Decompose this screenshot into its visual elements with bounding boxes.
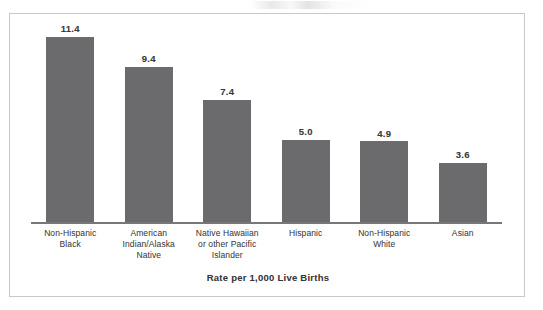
bar-item: 4.9 (345, 24, 424, 222)
x-axis-line (31, 222, 502, 224)
bar-item: 3.6 (424, 24, 503, 222)
category-label-text: Non-HispanicBlack (44, 228, 96, 261)
bar-item: 9.4 (110, 24, 189, 222)
bar-rect (46, 37, 94, 223)
scanned-page: 11.49.47.45.04.93.6 Non-HispanicBlackAme… (0, 0, 543, 310)
bar-rect (203, 100, 251, 222)
x-axis-tick-label: Asian (424, 228, 503, 261)
bar-item: 7.4 (188, 24, 267, 222)
x-axis-title: Rate per 1,000 Live Births (10, 272, 526, 283)
bar-rect (360, 141, 408, 222)
x-axis-tick-label: AmericanIndian/AlaskaNative (110, 228, 189, 261)
x-axis-tick-label: Native Hawaiianor other PacificIslander (188, 228, 267, 261)
x-axis-tick-label: Non-HispanicWhite (345, 228, 424, 261)
bar-series: 11.49.47.45.04.93.6 (31, 24, 502, 222)
x-axis-tick-label: Non-HispanicBlack (31, 228, 110, 261)
bar-item: 11.4 (31, 24, 110, 222)
x-axis-tick-label: Hispanic (267, 228, 346, 261)
bar-value-label: 9.4 (142, 54, 156, 64)
plot-area: 11.49.47.45.04.93.6 Non-HispanicBlackAme… (10, 14, 526, 298)
bar-rect (282, 140, 330, 223)
category-label-text: Hispanic (289, 228, 322, 261)
category-label-text: Asian (452, 228, 474, 261)
bar-rect (439, 163, 487, 222)
bar-value-label: 7.4 (220, 87, 234, 97)
category-label-text: Native Hawaiianor other PacificIslander (196, 228, 259, 261)
bar-rect (125, 67, 173, 222)
bar-value-label: 3.6 (456, 150, 470, 160)
bar-value-label: 11.4 (61, 24, 80, 34)
x-axis-category-labels: Non-HispanicBlackAmericanIndian/AlaskaNa… (31, 228, 502, 261)
scan-artifact (250, 1, 370, 9)
chart-frame: 11.49.47.45.04.93.6 Non-HispanicBlackAme… (9, 13, 525, 297)
bar-item: 5.0 (267, 24, 346, 222)
category-label-text: Non-HispanicWhite (358, 228, 410, 261)
bar-value-label: 4.9 (377, 129, 391, 139)
bar-value-label: 5.0 (299, 127, 313, 137)
category-label-text: AmericanIndian/AlaskaNative (123, 228, 175, 261)
